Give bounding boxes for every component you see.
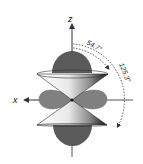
angle-label-125: 125.3° — [118, 62, 132, 84]
x-axis-label: x — [12, 95, 18, 105]
orbital-diagram: z x 54.7° 125.3° — [0, 0, 143, 164]
z-axis-label: z — [67, 14, 73, 24]
nucleus-dot — [71, 99, 74, 102]
angle-label-54: 54.7° — [86, 39, 104, 53]
bottom-axial-lobe — [53, 125, 92, 146]
